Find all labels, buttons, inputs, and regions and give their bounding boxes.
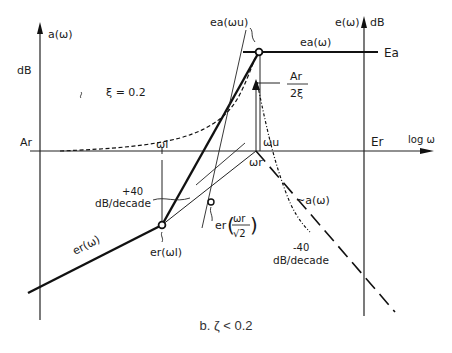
peak-numerator: Ar [290,70,303,83]
paren-close: ) [250,213,258,237]
slope-minus40-line [256,151,395,312]
er-omega-l-label: er(ωl) [150,246,182,259]
left-axis-label: a(ω) [48,28,73,41]
figure-caption: b. ζ < 0.2 [0,318,452,333]
omega-u-label: ωu [263,136,279,149]
peak-denominator: 2ξ [290,87,303,100]
arrow-up-icon [361,16,367,28]
er-prefix: er [215,219,227,232]
slope-minus40-line2: dB/decade [273,254,329,266]
slope-plus40-line2: dB/decade [95,197,151,209]
x-axis-label: log ω [408,134,435,145]
arrow-right-icon [420,148,434,154]
slope-minus40-line1: -40 [293,242,309,253]
damping-note: ξ = 0.2 [106,86,146,99]
level-ea: Ea [384,46,399,60]
omega-r-label: ωr [249,156,263,169]
omega-l-label: ωl [156,138,168,151]
bode-diagram: a(ω) dB ξ = 0.2 Ar ωl ea(ωu) ea(ω) e(ω) … [0,0,452,353]
ea-omega-label: ea(ω) [300,36,331,49]
right-axis [361,16,367,316]
level-er: Er [371,135,384,149]
left-axis-unit: dB [17,64,32,77]
level-ar: Ar [20,136,33,149]
arrow-up-icon [252,79,260,90]
er-omega-label: er(ω) [70,233,102,258]
point-ea-omega-u [256,49,263,56]
point-er-omega-r-sqrt2 [208,199,214,205]
right-axis-unit: dB [370,16,385,29]
a-omega-dashdot-curve [257,82,310,232]
right-axis-label: e(ω) [335,16,360,29]
er-frac-numerator: ωr [233,213,246,224]
er-frac-denominator: √2 [233,228,246,239]
ea-omega-u-label: ea(ωu) [210,16,248,29]
arrow-up-icon [37,22,43,34]
a-omega-approx-label: ~a(ω) [296,194,330,207]
point-er-omega-l [159,222,166,229]
slope-plus40-line1: +40 [122,186,143,197]
left-axis [37,22,43,320]
